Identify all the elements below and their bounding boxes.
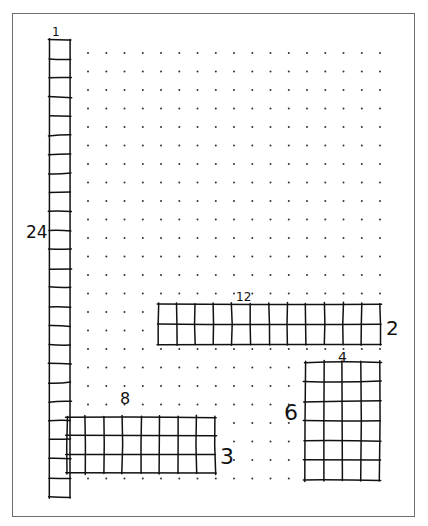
label-width-12: 12 <box>236 291 251 303</box>
dot-grid-drawing <box>0 0 428 526</box>
rect-12x2 <box>157 302 382 345</box>
dot-grid <box>87 52 381 480</box>
label-width-1: 1 <box>52 26 60 38</box>
label-height-3: 3 <box>220 446 234 468</box>
rect-8x3 <box>66 415 217 474</box>
label-width-4: 4 <box>338 350 347 364</box>
label-height-24: 24 <box>26 224 48 241</box>
label-width-8: 8 <box>120 391 130 407</box>
rect-4x6 <box>303 361 381 482</box>
label-height-2: 2 <box>386 318 399 338</box>
label-height-6: 6 <box>284 402 298 424</box>
rect-1x24 <box>48 39 71 499</box>
